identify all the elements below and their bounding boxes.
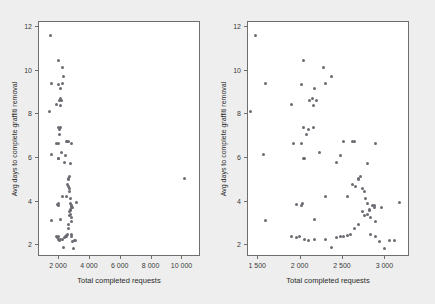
x-tick-label: 6 000 xyxy=(111,262,129,269)
data-point xyxy=(69,197,72,200)
plot-area-right xyxy=(247,21,409,256)
x-tick-mark xyxy=(300,256,301,259)
data-point xyxy=(324,82,327,85)
data-point xyxy=(380,206,383,209)
y-tick-mark xyxy=(244,113,247,114)
y-tick-label: 2 xyxy=(223,241,241,248)
data-point xyxy=(346,234,349,237)
data-point xyxy=(346,195,349,198)
x-tick-label: 4 000 xyxy=(80,262,98,269)
x-tick-label: 2 000 xyxy=(49,262,67,269)
data-point xyxy=(65,140,68,143)
data-point xyxy=(67,227,70,230)
panel-left-full-range: 246810122 0004 0006 0008 00010 000Total … xyxy=(0,0,218,304)
data-point xyxy=(383,247,386,250)
x-tick-mark xyxy=(181,256,182,259)
x-axis-title: Total completed requests xyxy=(286,276,369,285)
data-point xyxy=(366,162,369,165)
data-point xyxy=(49,34,52,37)
x-tick-mark xyxy=(384,256,385,259)
data-point xyxy=(61,195,64,198)
data-point xyxy=(48,110,51,113)
y-tick-label: 2 xyxy=(14,241,32,248)
data-point xyxy=(305,133,308,136)
x-tick-mark xyxy=(58,256,59,259)
data-point xyxy=(361,210,364,213)
data-point xyxy=(58,133,61,136)
data-point xyxy=(298,235,301,238)
x-tick-label: 8 000 xyxy=(142,262,160,269)
y-tick-mark xyxy=(35,157,38,158)
data-point xyxy=(349,233,352,236)
data-point xyxy=(311,97,314,100)
x-tick-mark xyxy=(120,256,121,259)
data-point xyxy=(354,185,357,188)
y-tick-mark xyxy=(244,70,247,71)
y-tick-label: 10 xyxy=(14,66,32,73)
data-point xyxy=(307,239,310,242)
x-tick-label: 3 000 xyxy=(376,262,394,269)
data-point xyxy=(290,235,293,238)
data-point xyxy=(60,99,63,102)
y-tick-mark xyxy=(244,244,247,245)
data-point xyxy=(69,162,72,165)
y-tick-mark xyxy=(35,201,38,202)
y-tick-mark xyxy=(244,157,247,158)
x-axis-title: Total completed requests xyxy=(77,276,160,285)
data-point xyxy=(61,82,64,85)
data-point xyxy=(315,99,318,102)
data-point xyxy=(72,247,75,250)
data-point xyxy=(324,238,327,241)
data-point xyxy=(57,83,60,86)
y-axis-title: Avg days to complete graffiti removal xyxy=(220,81,227,196)
data-point xyxy=(324,195,327,198)
y-tick-label: 4 xyxy=(223,197,241,204)
data-point xyxy=(312,126,315,129)
data-point xyxy=(303,157,306,160)
data-point xyxy=(339,235,342,238)
x-tick-mark xyxy=(151,256,152,259)
y-axis-title: Avg days to complete graffiti removal xyxy=(11,81,18,196)
data-point xyxy=(67,185,70,188)
y-tick-mark xyxy=(244,26,247,27)
x-tick-label: 1 500 xyxy=(248,262,266,269)
data-point xyxy=(368,209,371,212)
y-tick-mark xyxy=(35,113,38,114)
y-tick-label: 4 xyxy=(14,197,32,204)
data-point xyxy=(254,34,257,37)
y-tick-label: 12 xyxy=(14,23,32,30)
x-tick-label: 10 000 xyxy=(171,262,192,269)
y-tick-label: 10 xyxy=(223,66,241,73)
panel-right-zoomed-range: 246810121 5002 0002 5003 000Total comple… xyxy=(217,0,435,304)
y-tick-label: 12 xyxy=(223,23,241,30)
x-tick-mark xyxy=(257,256,258,259)
data-point xyxy=(295,236,298,239)
data-point xyxy=(55,235,58,238)
data-point xyxy=(65,195,68,198)
data-point xyxy=(75,201,78,204)
y-tick-mark xyxy=(35,70,38,71)
plot-area-left xyxy=(38,21,200,256)
data-point xyxy=(290,103,293,106)
data-point xyxy=(300,83,303,86)
data-point xyxy=(301,202,304,205)
data-point xyxy=(264,82,267,85)
x-tick-mark xyxy=(342,256,343,259)
data-point xyxy=(264,219,267,222)
x-tick-label: 2 000 xyxy=(291,262,309,269)
data-point xyxy=(59,218,62,221)
y-tick-mark xyxy=(35,244,38,245)
x-tick-label: 2 500 xyxy=(333,262,351,269)
y-tick-mark xyxy=(35,26,38,27)
data-point xyxy=(307,128,310,131)
x-tick-mark xyxy=(89,256,90,259)
scatter-plot-figure: 246810122 0004 0006 0008 00010 000Total … xyxy=(0,0,435,304)
data-point xyxy=(249,110,252,113)
data-point xyxy=(363,190,366,193)
y-tick-mark xyxy=(244,201,247,202)
